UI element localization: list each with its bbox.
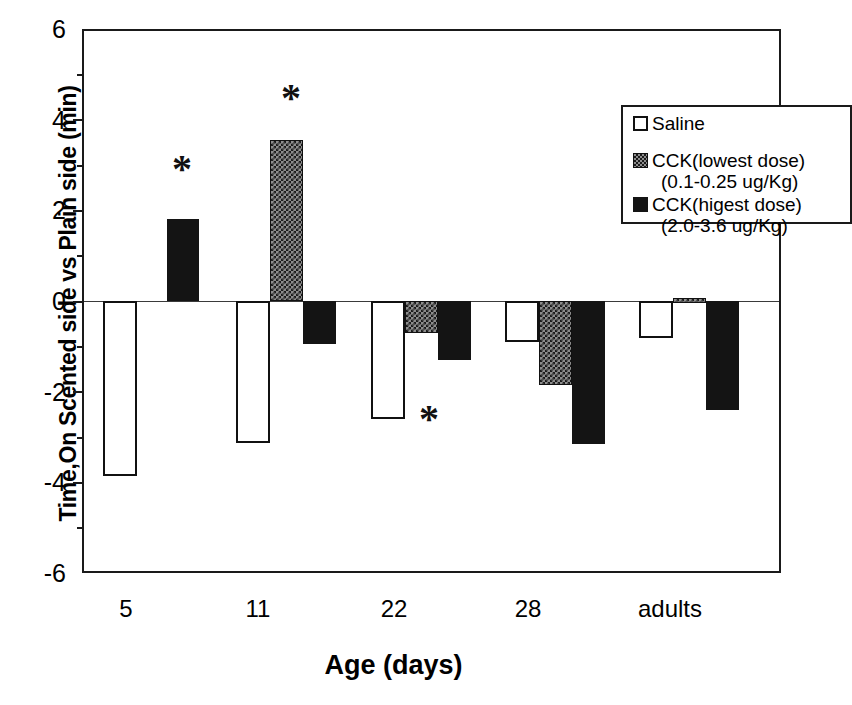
y-minor-tick [77, 346, 84, 348]
y-axis-tick-labels: 6 4 2 0 -2 -4 -6 [8, 0, 66, 705]
bar-saline-28 [505, 301, 539, 342]
y-minor-tick [77, 255, 84, 257]
legend-item-low-dose: CCK(lowest dose) (0.1-0.25 ug/Kg) [633, 150, 850, 192]
x-tick-label-adults: adults [625, 596, 715, 622]
y-tick-label: 6 [20, 17, 66, 42]
y-tick-label: 4 [20, 108, 66, 133]
y-tick-label: -4 [20, 470, 66, 495]
y-minor-tick [77, 165, 84, 167]
bar-saline-adults [639, 301, 673, 338]
legend-swatch-saline-icon [633, 116, 648, 131]
x-tick-label-5: 5 [96, 596, 156, 622]
y-tick-label: -2 [20, 380, 66, 405]
plot-area: * * * Saline CCK(lowest dose) (0.1-0.25 … [82, 29, 781, 573]
y-major-tick [73, 119, 84, 121]
bar-saline-22 [371, 301, 405, 419]
legend-swatch-low-dose-icon [633, 153, 648, 168]
legend-label-saline: Saline [652, 113, 705, 134]
x-tick-label-28: 28 [498, 596, 558, 622]
legend-sublabel-low-dose: (0.1-0.25 ug/Kg) [661, 171, 850, 192]
y-minor-tick [77, 437, 84, 439]
significance-asterisk: * [419, 399, 439, 439]
x-axis-title: Age (days) [0, 650, 787, 681]
legend: Saline CCK(lowest dose) (0.1-0.25 ug/Kg)… [621, 105, 852, 224]
significance-asterisk: * [172, 149, 192, 189]
y-major-tick [73, 482, 84, 484]
bar-low-dose-22 [405, 301, 438, 333]
x-tick-label-22: 22 [364, 596, 424, 622]
legend-label-low-dose: CCK(lowest dose) [652, 150, 805, 171]
legend-item-high-dose: CCK(higest dose) (2.0-3.6 ug/Kg) [633, 194, 850, 236]
y-tick-label: 0 [20, 289, 66, 314]
legend-item-saline: Saline [633, 113, 850, 134]
legend-sublabel-high-dose: (2.0-3.6 ug/Kg) [661, 215, 850, 236]
bar-saline-11 [236, 301, 270, 443]
significance-asterisk: * [281, 78, 301, 118]
y-major-tick [73, 210, 84, 212]
y-minor-tick [77, 74, 84, 76]
bar-high-dose-22 [438, 301, 471, 360]
legend-label-high-dose: CCK(higest dose) [652, 194, 802, 215]
bar-low-dose-adults [673, 298, 706, 303]
bar-high-dose-28 [572, 301, 605, 444]
legend-swatch-high-dose-icon [633, 197, 648, 212]
x-tick-label-11: 11 [228, 596, 288, 622]
y-major-tick [73, 391, 84, 393]
bar-low-dose-11 [270, 140, 303, 301]
bar-high-dose-adults [706, 301, 739, 410]
bar-high-dose-5 [167, 219, 199, 301]
y-major-tick [73, 301, 84, 303]
y-tick-label: 2 [20, 198, 66, 223]
y-minor-tick [77, 527, 84, 529]
bar-high-dose-11 [303, 301, 336, 344]
bar-low-dose-28 [539, 301, 572, 385]
bar-saline-5 [103, 301, 137, 476]
y-tick-label: -6 [20, 561, 66, 586]
